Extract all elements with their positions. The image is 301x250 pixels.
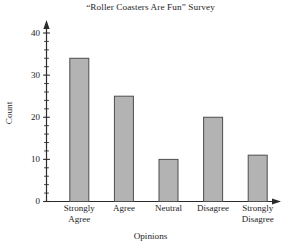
y-axis-tick-label: 30: [18, 70, 40, 80]
x-axis-category-label: Agree: [102, 203, 147, 214]
category-label-line1: Agree: [113, 203, 135, 213]
x-axis-category-label: Neutral: [146, 203, 191, 214]
bar: [159, 159, 178, 201]
category-label-line2: Agree: [57, 214, 102, 225]
y-axis-tick-label: 40: [18, 28, 40, 38]
bar: [70, 58, 89, 201]
x-axis-category-label: StronglyAgree: [57, 203, 102, 225]
category-label-line1: Disagree: [197, 203, 229, 213]
bar: [114, 96, 133, 201]
category-label-line2: Disagree: [235, 214, 280, 225]
y-axis-tick-label: 20: [18, 112, 40, 122]
category-label-line1: Strongly: [64, 203, 95, 213]
bar: [248, 155, 267, 201]
bars-group: [70, 58, 267, 201]
category-label-line1: Strongly: [242, 203, 273, 213]
y-axis-tick-label: 0: [18, 196, 40, 206]
x-axis-category-label: StronglyDisagree: [235, 203, 280, 225]
category-label-line1: Neutral: [155, 203, 182, 213]
bar-chart: “Roller Coasters Are Fun” Survey 0102030…: [0, 0, 301, 250]
y-axis-tick-label: 10: [18, 154, 40, 164]
bar: [204, 117, 223, 201]
y-axis-title: Count: [4, 85, 14, 141]
x-axis-title: Opinions: [0, 231, 301, 241]
x-axis-category-label: Disagree: [191, 203, 236, 214]
